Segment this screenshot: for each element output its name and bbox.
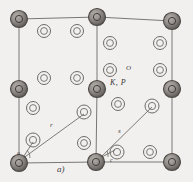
oxygen-atom <box>27 102 40 115</box>
oxygen-atom <box>38 72 51 85</box>
oxygen-label: O <box>126 65 131 72</box>
kp-atom <box>88 154 105 171</box>
angle-gamma-label: c <box>110 157 113 163</box>
kp-atom <box>164 13 181 30</box>
kp-atom <box>164 81 181 98</box>
kp-atom <box>11 155 28 172</box>
oxygen-atom <box>104 64 117 77</box>
oxygen-atom <box>145 99 159 113</box>
unit-cell-canvas <box>0 0 193 182</box>
oxygen-atom <box>154 64 167 77</box>
oxygen-atom <box>26 133 40 147</box>
oxygen-atom <box>71 72 84 85</box>
radius-r-label: r <box>50 122 53 129</box>
angle-alpha-label: a <box>17 150 20 156</box>
axis-a-label: a) <box>57 165 65 174</box>
bond-lines <box>22 107 152 159</box>
crystal-structure-figure: O K, P a) r s a c <box>0 0 193 182</box>
radius-s-label: s <box>118 128 121 135</box>
oxygen-atom <box>112 98 125 111</box>
kp-atom <box>11 81 28 98</box>
oxygen-atom <box>104 37 117 50</box>
kp-atom <box>89 81 106 98</box>
oxygen-atom <box>38 25 51 38</box>
oxygen-atom <box>144 146 157 159</box>
kp-label: K, P <box>110 79 126 87</box>
oxygen-atom <box>154 37 167 50</box>
oxygen-atom <box>77 105 91 119</box>
oxygen-atom <box>78 137 91 150</box>
kp-atom <box>164 154 181 171</box>
oxygen-atom <box>71 25 84 38</box>
kp-atom <box>89 9 106 26</box>
kp-atoms <box>11 9 181 172</box>
kp-atom <box>11 11 28 28</box>
